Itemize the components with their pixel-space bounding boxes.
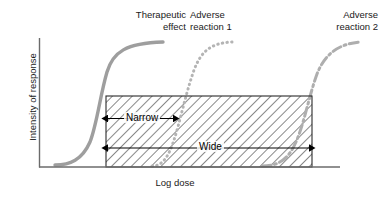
- wide-range-label: Wide: [197, 141, 224, 152]
- narrow-range-label: Narrow: [124, 112, 160, 123]
- x-axis-label: Log dose: [125, 177, 225, 189]
- label-therapeutic-effect: Therapeutic effect: [112, 9, 186, 32]
- therapeutic-window-region: [106, 96, 312, 167]
- label-adverse-reaction-1: Adverse reaction 1: [190, 9, 262, 32]
- dose-response-chart: Therapeutic effect Adverse reaction 1 Ad…: [0, 0, 381, 202]
- label-adverse-reaction-2: Adverse reaction 2: [306, 9, 378, 32]
- y-axis-label: Intensity of response: [27, 27, 39, 167]
